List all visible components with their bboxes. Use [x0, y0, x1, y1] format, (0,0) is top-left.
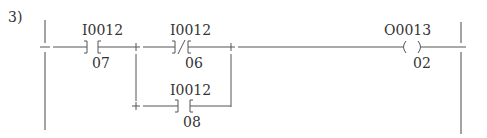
- contact-1-address: I0012: [82, 22, 123, 38]
- contact-3-address: I0012: [170, 82, 211, 98]
- ladder-diagram: 3) I0012 07 I0012 06: [0, 0, 487, 138]
- branch-node-left: [132, 43, 140, 110]
- output-coil-icon: [404, 41, 421, 53]
- coil-bit: 02: [413, 55, 431, 71]
- left-power-rail: [40, 20, 50, 130]
- coil-address: O0013: [384, 22, 431, 38]
- contact-3-bit: 08: [183, 114, 201, 130]
- problem-number: 3): [8, 9, 22, 25]
- contact-1-bit: 07: [92, 55, 110, 71]
- branch-node-right: [227, 43, 235, 107]
- contact-2-bit: 06: [185, 55, 203, 71]
- right-power-rail: [456, 22, 466, 134]
- contact-2-address: I0012: [170, 22, 211, 38]
